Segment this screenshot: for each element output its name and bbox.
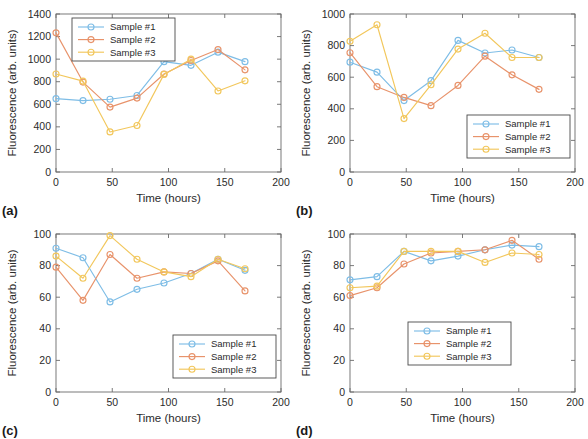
y-tick-label: 100	[327, 228, 345, 240]
y-tick-label: 20	[39, 354, 51, 366]
y-axis-title: Fluorescence (arb. units)	[300, 249, 312, 376]
legend-label-sample-3: Sample #3	[446, 351, 491, 362]
panel-d: 050100150200020406080100Time (hours)Fluo…	[294, 220, 588, 439]
series-line	[56, 59, 245, 132]
series-line	[350, 240, 539, 295]
y-tick-label: 0	[45, 386, 51, 398]
series-line	[350, 251, 539, 287]
x-tick-label: 50	[400, 176, 412, 188]
x-tick-label: 100	[454, 176, 472, 188]
x-tick-label: 150	[510, 396, 528, 408]
y-tick-label: 80	[39, 259, 51, 271]
x-tick-label: 100	[160, 176, 178, 188]
plot-area: 0501001502000200400600800100012001400Tim…	[0, 0, 294, 219]
figure-2x2-line-plots: 0501001502000200400600800100012001400Tim…	[0, 0, 588, 439]
y-tick-label: 600	[327, 71, 345, 83]
y-axis-title: Fluorescence (arb. units)	[300, 29, 312, 156]
x-tick-label: 100	[454, 396, 472, 408]
legend-label-sample-3: Sample #3	[211, 364, 256, 375]
x-tick-label: 0	[347, 176, 353, 188]
x-tick-label: 150	[216, 396, 234, 408]
legend-label-sample-1: Sample #1	[110, 21, 155, 32]
series-3	[53, 56, 248, 135]
legend-label-sample-2: Sample #2	[446, 338, 491, 349]
legend-label-sample-1: Sample #1	[211, 338, 256, 349]
y-axis-title: Fluorescence (arb. units)	[6, 29, 18, 156]
y-tick-label: 60	[39, 291, 51, 303]
legend-label-sample-1: Sample #1	[446, 325, 491, 336]
y-tick-label: 800	[327, 39, 345, 51]
y-tick-label: 0	[339, 166, 345, 178]
x-tick-label: 50	[106, 396, 118, 408]
y-tick-label: 400	[327, 102, 345, 114]
panel-a: 0501001502000200400600800100012001400Tim…	[0, 0, 294, 219]
x-axis-title: Time (hours)	[136, 192, 201, 204]
y-tick-label: 100	[33, 228, 51, 240]
y-axis-title: Fluorescence (arb. units)	[6, 249, 18, 376]
x-tick-label: 0	[53, 396, 59, 408]
x-tick-label: 50	[106, 176, 118, 188]
panel-c-tag: (c)	[2, 423, 18, 438]
x-axis-title: Time (hours)	[136, 412, 201, 424]
legend-label-sample-3: Sample #3	[110, 47, 155, 58]
legend-label-sample-1: Sample #1	[505, 118, 550, 129]
x-axis-title: Time (hours)	[430, 192, 495, 204]
y-tick-label: 200	[327, 134, 345, 146]
y-tick-label: 1000	[322, 8, 346, 20]
y-tick-label: 1200	[28, 30, 52, 42]
y-tick-label: 400	[33, 120, 51, 132]
x-tick-label: 0	[53, 176, 59, 188]
y-tick-label: 0	[339, 386, 345, 398]
x-tick-label: 200	[566, 396, 584, 408]
legend-label-sample-3: Sample #3	[505, 144, 550, 155]
series-2	[347, 50, 542, 109]
y-tick-label: 1400	[28, 8, 52, 20]
y-tick-label: 0	[45, 166, 51, 178]
panel-a-tag: (a)	[2, 203, 18, 218]
x-axis-title: Time (hours)	[430, 412, 495, 424]
panel-c: 050100150200020406080100Time (hours)Fluo…	[0, 220, 294, 439]
y-tick-label: 40	[333, 322, 345, 334]
plot-area: 050100150200020406080100Time (hours)Fluo…	[294, 220, 588, 439]
x-tick-label: 150	[510, 176, 528, 188]
legend: Sample #1Sample #2Sample #3	[408, 322, 511, 365]
x-tick-label: 200	[272, 396, 290, 408]
legend-label-sample-2: Sample #2	[505, 131, 550, 142]
panel-d-tag: (d)	[296, 423, 313, 438]
y-tick-label: 600	[33, 98, 51, 110]
x-tick-label: 0	[347, 396, 353, 408]
y-tick-label: 200	[33, 143, 51, 155]
y-tick-label: 1000	[28, 53, 52, 65]
plot-area: 05010015020002004006008001000Time (hours…	[294, 0, 588, 219]
y-tick-label: 60	[333, 291, 345, 303]
legend: Sample #1Sample #2Sample #3	[72, 18, 175, 61]
legend: Sample #1Sample #2Sample #3	[467, 115, 570, 158]
legend-label-sample-2: Sample #2	[211, 351, 256, 362]
x-tick-label: 50	[400, 396, 412, 408]
panel-b: 05010015020002004006008001000Time (hours…	[294, 0, 588, 219]
plot-area: 050100150200020406080100Time (hours)Fluo…	[0, 220, 294, 439]
series-1	[347, 37, 542, 103]
y-tick-label: 40	[39, 322, 51, 334]
series-1	[347, 242, 542, 283]
x-tick-label: 200	[566, 176, 584, 188]
y-tick-label: 80	[333, 259, 345, 271]
x-tick-label: 150	[216, 176, 234, 188]
x-tick-label: 100	[160, 396, 178, 408]
legend-label-sample-2: Sample #2	[110, 34, 155, 45]
series-line	[350, 40, 539, 100]
panel-b-tag: (b)	[296, 203, 313, 218]
x-tick-label: 200	[272, 176, 290, 188]
legend: Sample #1Sample #2Sample #3	[173, 335, 276, 378]
y-tick-label: 20	[333, 354, 345, 366]
y-tick-label: 800	[33, 75, 51, 87]
